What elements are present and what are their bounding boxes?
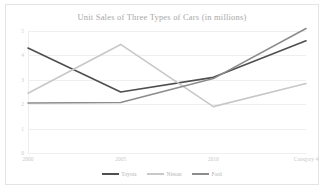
legend-label: Nissan [166,171,181,177]
plot-area: 012345 [28,31,306,153]
x-axis-tick-label: Category 4 [294,156,318,162]
x-axis-tick-label: 2005 [115,156,126,162]
chart-title: Unit Sales of Three Types of Cars (in mi… [6,12,318,22]
x-axis-tick-label: 2000 [23,156,34,162]
series-lines [28,31,306,153]
legend-label: Ford [211,171,221,177]
legend-item-nissan[interactable]: Nissan [147,171,181,177]
chart-legend: ToyotaNissanFord [6,171,318,177]
y-axis-tick-label: 3 [21,77,24,83]
chart-container: Unit Sales of Three Types of Cars (in mi… [5,4,319,185]
y-axis-tick-label: 1 [21,126,24,132]
y-axis-tick-label: 2 [21,101,24,107]
series-line-toyota [28,41,306,92]
x-axis-ticks: 200020052010Category 4 [28,156,306,168]
legend-swatch-icon [102,173,119,175]
series-line-nissan [28,44,306,106]
legend-swatch-icon [147,173,164,175]
gridline: 0 [28,153,306,154]
series-line-ford [28,29,306,103]
legend-item-toyota[interactable]: Toyota [102,171,136,177]
legend-swatch-icon [192,173,209,175]
x-axis-tick-label: 2010 [208,156,219,162]
y-axis-tick-label: 4 [21,52,24,58]
legend-item-ford[interactable]: Ford [192,171,221,177]
legend-label: Toyota [121,171,136,177]
y-axis-tick-label: 5 [21,28,24,34]
